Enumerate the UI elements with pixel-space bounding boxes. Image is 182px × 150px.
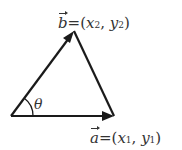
difference-side-line bbox=[74, 31, 114, 116]
vector-b-label: b=(x2, y2) bbox=[58, 16, 130, 31]
vector-b-arrowhead bbox=[63, 31, 74, 43]
vector-a-label: a=(x1, y1) bbox=[90, 131, 161, 146]
angle-arc bbox=[24, 98, 33, 116]
angle-theta-label: θ bbox=[34, 97, 42, 111]
vector-triangle-diagram: b=(x2, y2) θ a=(x1, y1) bbox=[0, 0, 182, 150]
